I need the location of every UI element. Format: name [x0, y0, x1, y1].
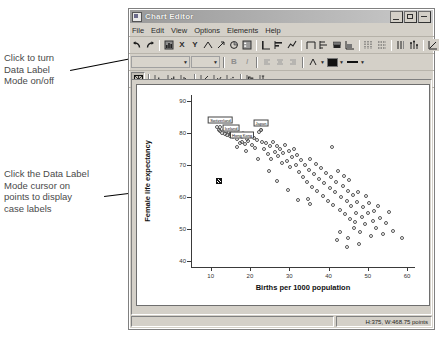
data-point[interactable]	[266, 152, 270, 156]
data-point[interactable]	[280, 161, 284, 165]
data-point[interactable]	[338, 208, 342, 212]
chart-properties-icon[interactable]	[163, 39, 175, 51]
data-point[interactable]	[381, 232, 385, 236]
data-point[interactable]	[335, 238, 339, 242]
data-point-label[interactable]: Japan	[253, 120, 268, 127]
data-point[interactable]	[281, 151, 285, 155]
data-point[interactable]	[315, 189, 319, 193]
data-point[interactable]	[235, 145, 239, 149]
chevron-down-icon[interactable]: ▼	[360, 56, 365, 68]
scatter-plot[interactable]: 405060708090 102030405060 SwitzerlandIce…	[191, 95, 415, 267]
data-point[interactable]	[322, 181, 326, 185]
data-point[interactable]	[267, 169, 271, 173]
redo-icon[interactable]	[144, 39, 156, 51]
text-color-icon[interactable]	[307, 56, 319, 68]
reference-line-icon[interactable]	[395, 39, 407, 51]
grid-minor-icon[interactable]	[376, 39, 388, 51]
data-point[interactable]	[348, 217, 352, 221]
data-point-label[interactable]: Switzerland	[208, 116, 233, 123]
data-point[interactable]	[314, 162, 318, 166]
data-point[interactable]	[363, 222, 367, 226]
font-size-combo[interactable]: ▼	[191, 56, 220, 68]
undo-icon[interactable]	[131, 39, 143, 51]
data-point[interactable]	[292, 147, 296, 151]
menu-item-edit[interactable]: Edit	[151, 26, 164, 35]
data-point[interactable]	[361, 205, 365, 209]
chart-canvas-area[interactable]: 405060708090 102030405060 SwitzerlandIce…	[131, 79, 432, 315]
data-point[interactable]	[345, 245, 349, 249]
data-point[interactable]	[347, 178, 351, 182]
data-point[interactable]	[262, 147, 266, 151]
align-left-icon[interactable]	[261, 56, 273, 68]
data-point[interactable]	[364, 194, 368, 198]
data-point[interactable]	[330, 145, 334, 149]
data-point[interactable]	[343, 212, 347, 216]
data-point[interactable]	[354, 211, 358, 215]
scale-axis-icon[interactable]	[202, 39, 214, 51]
data-point[interactable]	[328, 186, 332, 190]
close-button[interactable]	[418, 11, 431, 23]
data-point[interactable]	[308, 202, 312, 206]
data-point[interactable]	[355, 200, 359, 204]
data-point[interactable]	[294, 163, 298, 167]
x-axis-icon[interactable]: X	[176, 39, 188, 51]
data-point[interactable]	[307, 168, 311, 172]
data-point[interactable]	[371, 219, 375, 223]
data-point[interactable]	[372, 209, 376, 213]
data-point[interactable]	[285, 159, 289, 163]
stacked-bar-icon[interactable]	[331, 39, 343, 51]
rotate-icon[interactable]	[215, 39, 227, 51]
data-point[interactable]	[268, 144, 272, 148]
data-point[interactable]	[301, 175, 305, 179]
data-point[interactable]	[357, 242, 361, 246]
fit-line-icon[interactable]	[427, 39, 439, 51]
data-point[interactable]	[244, 149, 248, 153]
window-title-bar[interactable]: Chart Editor	[130, 10, 433, 23]
data-point[interactable]	[342, 174, 346, 178]
data-point-label[interactable]: Hong Kong	[230, 131, 254, 138]
data-point[interactable]	[288, 165, 292, 169]
area-left-icon[interactable]	[318, 39, 330, 51]
data-point[interactable]	[273, 150, 277, 154]
data-point[interactable]	[331, 203, 335, 207]
data-point[interactable]	[400, 236, 404, 240]
data-point[interactable]	[324, 171, 328, 175]
data-point[interactable]	[387, 210, 391, 214]
data-point[interactable]	[338, 230, 342, 234]
data-point[interactable]	[275, 179, 279, 183]
data-point[interactable]	[271, 140, 275, 144]
fill-color-button[interactable]	[326, 56, 338, 68]
data-point[interactable]	[295, 153, 299, 157]
line-icon[interactable]	[286, 39, 298, 51]
data-point[interactable]	[321, 194, 325, 198]
data-point[interactable]	[306, 197, 310, 201]
data-point[interactable]	[345, 199, 349, 203]
bar-horizontal-icon[interactable]	[273, 39, 285, 51]
menu-item-elements[interactable]: Elements	[227, 26, 258, 35]
data-point[interactable]	[253, 146, 257, 150]
data-point[interactable]	[305, 180, 309, 184]
data-point[interactable]	[255, 138, 259, 142]
data-point[interactable]	[287, 149, 291, 153]
data-point[interactable]	[333, 190, 337, 194]
data-point[interactable]	[374, 226, 378, 230]
spike-icon[interactable]	[408, 39, 420, 51]
data-point[interactable]	[246, 139, 250, 143]
data-point[interactable]	[312, 172, 316, 176]
bar-vertical-icon[interactable]	[260, 39, 272, 51]
data-point[interactable]	[319, 166, 323, 170]
data-point[interactable]	[326, 199, 330, 203]
menu-item-options[interactable]: Options	[194, 26, 220, 35]
data-point[interactable]	[352, 226, 356, 230]
data-point[interactable]	[378, 216, 382, 220]
data-point[interactable]	[358, 230, 362, 234]
data-point[interactable]	[376, 204, 380, 208]
data-point[interactable]	[299, 158, 303, 162]
data-point[interactable]	[384, 221, 388, 225]
stacked-area-icon[interactable]	[344, 39, 356, 51]
y-axis-icon[interactable]: Y	[189, 39, 201, 51]
data-point[interactable]	[276, 154, 280, 158]
data-point[interactable]	[346, 236, 350, 240]
data-point[interactable]	[336, 169, 340, 173]
data-point[interactable]	[334, 180, 338, 184]
